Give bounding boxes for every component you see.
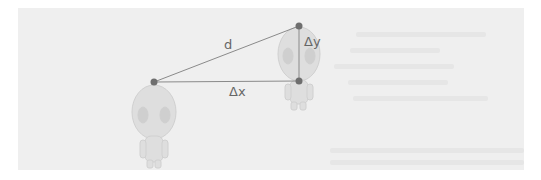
point-alien-right-top [296, 23, 303, 30]
alien-left-icon [132, 85, 176, 168]
delta-x-line [154, 81, 299, 82]
label-delta-x: Δx [229, 84, 246, 99]
distance-line [154, 26, 299, 82]
point-alien-left [151, 79, 158, 86]
label-delta-y: Δy [304, 34, 321, 49]
distance-diagram [0, 0, 541, 180]
point-alien-right-bottom [296, 78, 303, 85]
label-distance: d [224, 37, 232, 52]
